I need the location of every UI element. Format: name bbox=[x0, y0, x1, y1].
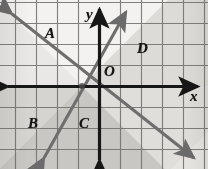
coordinate-plane-figure: A B C D y x O bbox=[0, 0, 208, 169]
origin-label: O bbox=[104, 64, 115, 79]
x-axis-label: x bbox=[190, 89, 198, 104]
intersection-point bbox=[79, 83, 85, 89]
y-axis-label: y bbox=[86, 7, 93, 22]
region-label-b: B bbox=[28, 116, 38, 131]
region-label-d: D bbox=[137, 41, 148, 56]
region-label-c: C bbox=[79, 116, 89, 131]
graph-canvas bbox=[0, 0, 208, 169]
region-label-a: A bbox=[45, 26, 55, 41]
